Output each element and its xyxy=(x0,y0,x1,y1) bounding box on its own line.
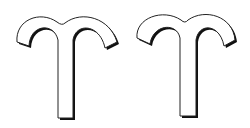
aries-icon xyxy=(125,0,250,128)
aries-symbol-left: Aries xyxy=(0,0,125,128)
aries-icon xyxy=(0,0,125,128)
aries-symbol-right: Aries xyxy=(125,0,250,128)
